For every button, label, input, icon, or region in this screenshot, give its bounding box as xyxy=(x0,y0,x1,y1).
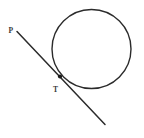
point-label-t: T xyxy=(53,85,58,94)
tangent-point-marker xyxy=(58,74,62,78)
geometry-figure: P T xyxy=(0,0,144,138)
point-label-p: P xyxy=(9,26,14,35)
circle-shape xyxy=(52,10,131,89)
figure-canvas: P T xyxy=(0,0,144,138)
